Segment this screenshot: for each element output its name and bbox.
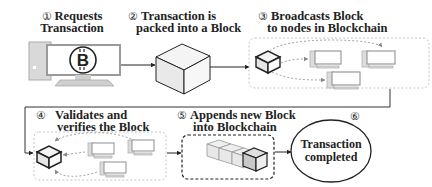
block-cube-icon [156,44,210,94]
step-1-label: ①Requests Transaction [22,10,122,34]
broadcast-network-icon [249,38,429,89]
step-2-label: ②Transaction is packed into a Block [128,10,241,34]
step-5-number: ⑤ [177,109,187,121]
validation-network-icon [34,132,166,180]
blockchain-chain-icon [182,135,274,179]
step-5-label: ⑤Appends new Block into Blockchain [177,109,296,133]
step-6-label: Transaction completed [291,138,371,164]
bitcoin-computer-icon: B [29,42,120,86]
svg-text:B: B [77,51,89,70]
step-6-number: ⑥ [350,110,360,123]
blockchain-flow-diagram: B [0,0,432,187]
step-3-label: ③Broadcasts Block to nodes in Blockchain [258,10,388,34]
step-4-label: ④Validates and verifies the Block [36,109,149,133]
step-4-number: ④ [36,109,46,121]
